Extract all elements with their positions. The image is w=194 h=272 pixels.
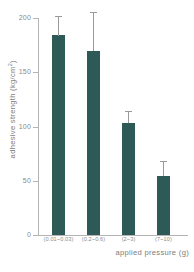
bar-series-3	[122, 123, 135, 235]
error-bar-3	[128, 111, 129, 123]
bar-series-1	[52, 35, 65, 235]
x-axis-tick-label-3: (2~3)	[122, 236, 136, 242]
x-axis-tick-label-4: (7~10)	[155, 236, 172, 242]
x-axis-tick-label-1: (0.01~0.03)	[44, 236, 74, 242]
y-axis-title: adhesive strength (kg/cm2)	[7, 34, 18, 184]
y-axis-tick-label-0: 0	[0, 231, 31, 238]
y-axis-title-superscript: 2	[7, 63, 13, 66]
x-axis-tick-labels: (0.01~0.03) (0.2~0.6) (2~3) (7~10)	[38, 236, 190, 248]
y-axis-title-close-paren: )	[8, 60, 17, 63]
error-bar-cap-4	[160, 161, 167, 162]
bar-series-2	[87, 51, 100, 236]
error-bar-2	[93, 12, 94, 51]
error-bar-1	[58, 16, 59, 36]
x-axis-title: applied pressure (g)	[0, 248, 189, 257]
error-bar-4	[163, 161, 164, 176]
error-bar-cap-2	[90, 12, 97, 13]
x-axis-tick-label-2: (0.2~0.6)	[82, 236, 105, 242]
y-axis-title-text: adhesive strength (kg/cm	[8, 66, 17, 158]
bar-chart-figure: 0 50 100 150 200 (0.01~0.03)	[0, 0, 194, 272]
bars-layer	[38, 18, 188, 235]
y-axis-tick-label-200: 200	[0, 14, 31, 21]
error-bar-cap-1	[55, 16, 62, 17]
bar-series-4	[157, 176, 170, 235]
error-bar-cap-3	[125, 111, 132, 112]
